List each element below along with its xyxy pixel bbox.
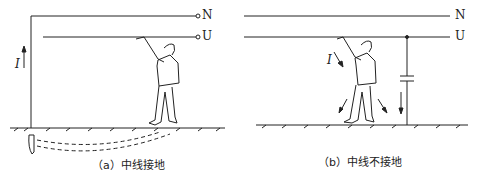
arrow-head-a bbox=[22, 46, 26, 52]
terminal-u-a bbox=[196, 35, 200, 39]
label-u-a: U bbox=[202, 29, 212, 43]
leakage-arrow-head bbox=[399, 108, 403, 114]
person-b bbox=[337, 37, 376, 123]
current-label-a: I bbox=[15, 57, 20, 71]
current-label-b: I bbox=[327, 53, 332, 67]
label-n-b: N bbox=[455, 8, 466, 22]
terminal-n-a bbox=[196, 14, 200, 18]
label-u-b: U bbox=[455, 29, 465, 43]
figure-b bbox=[244, 16, 468, 128]
caption-a: （a）中线接地 bbox=[92, 156, 165, 172]
diagram-canvas bbox=[0, 0, 477, 177]
leak-arrow-right-head bbox=[382, 107, 387, 113]
person-a bbox=[136, 37, 179, 125]
caption-b: （b）中线不接地 bbox=[318, 153, 402, 169]
ground-electrode bbox=[29, 135, 34, 154]
figure-a bbox=[10, 14, 225, 154]
neutral-line-a bbox=[31, 16, 196, 128]
label-n-a: N bbox=[202, 8, 213, 22]
arrow-head-b bbox=[338, 61, 343, 67]
return-path-2 bbox=[37, 134, 170, 151]
